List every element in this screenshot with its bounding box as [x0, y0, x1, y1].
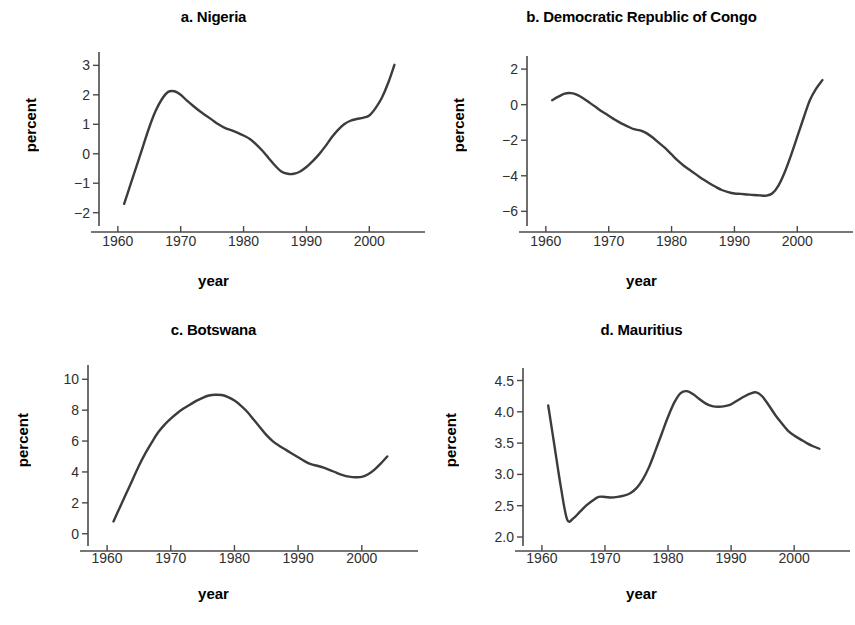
x-tick-label: 1990: [716, 550, 747, 566]
y-tick-label: 3.5: [495, 435, 515, 451]
x-tick-label: 1990: [719, 233, 750, 249]
y-tick-label: 4.0: [495, 404, 515, 420]
y-tick-label: 2: [82, 87, 90, 103]
y-tick-label: 2.0: [495, 529, 515, 545]
y-tick-label: 6: [71, 433, 79, 449]
x-tick-label: 1960: [102, 233, 133, 249]
y-tick-label: 1: [82, 116, 90, 132]
x-tick-label: 1980: [652, 550, 683, 566]
x-tick-label: 1990: [283, 550, 314, 566]
y-tick-label: 4.5: [495, 373, 515, 389]
x-tick-label: 1980: [656, 233, 687, 249]
series-line-d: [548, 391, 819, 522]
y-tick-label: 2: [510, 61, 518, 77]
chart-panel-botswana: c. Botswana percent year 024681019601970…: [0, 313, 427, 625]
x-tick-label: 1960: [526, 550, 557, 566]
y-tick-label: 2: [71, 495, 79, 511]
y-tick-label: −1: [74, 175, 90, 191]
x-tick-label: 2000: [782, 233, 813, 249]
plot-area-c: 024681019601970198019902000: [0, 313, 427, 625]
y-tick-label: 3: [82, 57, 90, 73]
y-tick-label: 0: [510, 97, 518, 113]
x-tick-label: 2000: [346, 550, 377, 566]
y-tick-label: 10: [63, 371, 79, 387]
x-tick-label: 1970: [589, 550, 620, 566]
y-tick-label: −4: [502, 168, 518, 184]
chart-panel-mauritius: d. Mauritius percent year 2.02.53.03.54.…: [428, 313, 855, 625]
y-tick-label: 3.0: [495, 466, 515, 482]
x-tick-label: 1960: [92, 550, 123, 566]
figure-panel-grid: a. Nigeria percent year −2−1012319601970…: [0, 0, 855, 625]
series-line-a: [124, 65, 394, 204]
x-tick-label: 2000: [779, 550, 810, 566]
plot-area-b: −6−4−20219601970198019902000: [428, 0, 855, 312]
series-line-b: [552, 80, 822, 196]
y-tick-label: −2: [502, 132, 518, 148]
y-tick-label: 0: [71, 526, 79, 542]
x-tick-label: 1980: [219, 550, 250, 566]
plot-area-d: 2.02.53.03.54.04.519601970198019902000: [428, 313, 855, 625]
y-tick-label: −6: [502, 203, 518, 219]
x-tick-label: 2000: [354, 233, 385, 249]
x-tick-label: 1990: [291, 233, 322, 249]
y-tick-label: 2.5: [495, 498, 515, 514]
x-tick-label: 1970: [593, 233, 624, 249]
plot-area-a: −2−1012319601970198019902000: [0, 0, 427, 312]
chart-panel-drc: b. Democratic Republic of Congo percent …: [428, 0, 855, 312]
chart-panel-nigeria: a. Nigeria percent year −2−1012319601970…: [0, 0, 427, 312]
series-line-c: [113, 395, 387, 522]
x-tick-label: 1970: [155, 550, 186, 566]
y-tick-label: 4: [71, 464, 79, 480]
x-tick-label: 1980: [228, 233, 259, 249]
x-tick-label: 1970: [165, 233, 196, 249]
x-tick-label: 1960: [530, 233, 561, 249]
y-tick-label: −2: [74, 205, 90, 221]
y-tick-label: 0: [82, 146, 90, 162]
y-tick-label: 8: [71, 402, 79, 418]
